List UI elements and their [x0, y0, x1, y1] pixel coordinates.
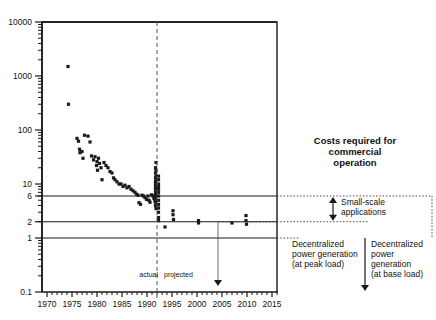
- data-point: [172, 218, 175, 221]
- data-point: [146, 194, 149, 197]
- data-point: [139, 203, 142, 206]
- annotation-line: Decentralized: [371, 239, 423, 249]
- data-point: [75, 137, 78, 140]
- data-point: [163, 225, 166, 228]
- annotation-line: (at base load): [371, 269, 423, 279]
- y-axis-tick-label: 1000: [13, 71, 32, 81]
- x-axis-tick-label: 2005: [213, 299, 232, 309]
- y-axis-tick-label: 10: [23, 179, 33, 189]
- x-axis-tick-label: 1980: [88, 299, 107, 309]
- data-point: [148, 201, 151, 204]
- annotation-line: Costs required for: [314, 135, 397, 146]
- chart-figure: 100001000100106210.1 1970197519801985199…: [0, 0, 436, 320]
- y-axis-tick-label: 100: [18, 125, 32, 135]
- data-point: [245, 223, 248, 226]
- annotation-line: Decentralized: [292, 239, 344, 249]
- x-axis-tick-label: 1970: [38, 299, 57, 309]
- annotation-line: commercial: [329, 146, 382, 157]
- annotation-line: power: [371, 249, 394, 259]
- x-axis-tick-label: 2010: [238, 299, 257, 309]
- data-point: [92, 158, 95, 161]
- data-point: [95, 164, 98, 167]
- x-axis-tick-label: 1985: [113, 299, 132, 309]
- data-point: [83, 134, 86, 137]
- cost-projection-scatter-chart: 100001000100106210.1 1970197519801985199…: [0, 0, 436, 320]
- data-point: [197, 221, 200, 224]
- data-point: [90, 154, 93, 157]
- annotation-line: power generation: [292, 249, 358, 259]
- x-axis-tick-label: 2000: [188, 299, 207, 309]
- annotation-line: applications: [341, 207, 386, 217]
- data-point: [127, 185, 130, 188]
- data-point: [171, 209, 174, 212]
- data-point: [102, 161, 105, 164]
- data-point: [67, 103, 70, 106]
- annotation-line: operation: [333, 157, 376, 168]
- x-axis-tick-label: 1990: [138, 299, 157, 309]
- data-point: [171, 213, 174, 216]
- annotation-line: Small-scale: [341, 197, 385, 207]
- data-point: [66, 65, 69, 68]
- data-point: [93, 155, 96, 158]
- annotation-line: generation: [371, 259, 411, 269]
- data-point: [100, 178, 103, 181]
- data-point: [106, 166, 109, 169]
- data-point: [110, 171, 113, 174]
- divider-labels: actual projected: [139, 271, 193, 279]
- data-point: [99, 166, 102, 169]
- divider-label-projected: projected: [164, 271, 193, 279]
- y-axis-tick-label: 0.1: [20, 287, 32, 297]
- x-axis-tick-label: 1995: [163, 299, 182, 309]
- x-axis-tick-label: 1975: [63, 299, 82, 309]
- data-point: [98, 162, 101, 165]
- annotation-small-scale-applications: Small-scale applications: [341, 197, 386, 217]
- divider-label-actual: actual: [139, 271, 158, 278]
- data-point: [244, 214, 247, 217]
- y-axis-tick-label: 10000: [8, 17, 32, 27]
- x-axis-tick-label: 2015: [263, 299, 282, 309]
- annotation-line: (at peak load): [292, 259, 344, 269]
- y-axis-tick-label: 1: [27, 233, 32, 243]
- data-point: [136, 194, 139, 197]
- data-point: [154, 201, 157, 204]
- data-point: [80, 150, 83, 153]
- y-axis-tick-label: 2: [27, 217, 32, 227]
- y-axis-tick-label: 6: [27, 191, 32, 201]
- data-point: [88, 140, 91, 143]
- data-point: [97, 157, 100, 160]
- data-point: [81, 157, 84, 160]
- data-point: [77, 140, 80, 143]
- data-point: [86, 135, 89, 138]
- data-point: [96, 169, 99, 172]
